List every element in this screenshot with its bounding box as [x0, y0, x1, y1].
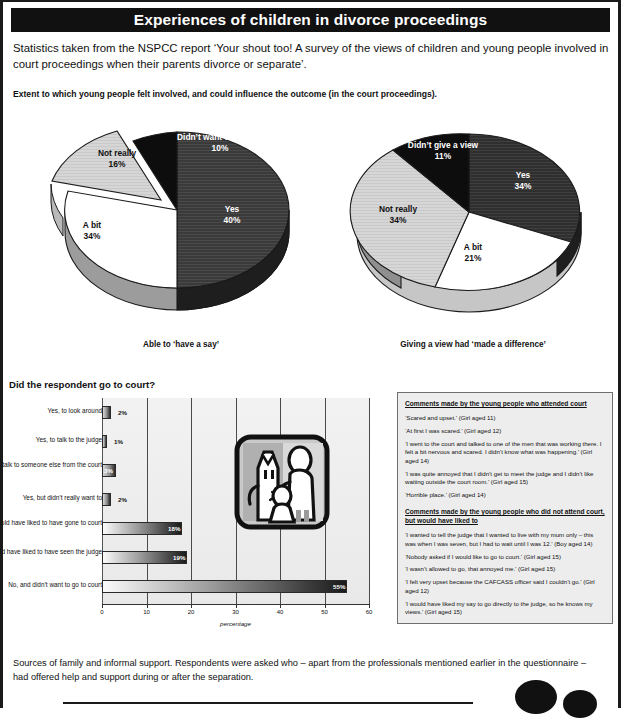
xtick-mark-30 — [236, 604, 237, 608]
comment-quote: ‘I went to the court and talked to one o… — [405, 440, 605, 465]
xtick-label: 0 — [92, 609, 112, 615]
xtick-mark-50 — [325, 604, 326, 608]
pie-1-slice-label-didnt-want: Didn’t want to be involved10% — [177, 132, 263, 153]
pie-1-slice-label-not-really: Not really16% — [83, 148, 151, 169]
bar-value-label: 3% — [104, 464, 113, 477]
pie-2-slice-label-didnt-give-view: Didn’t give a view11% — [407, 140, 479, 161]
pie-1-slice-label-a-bit: A bit34% — [65, 220, 119, 241]
xtick-mark-0 — [102, 604, 103, 608]
comments-heading-did-not-attend: Comments made by the young people who di… — [405, 507, 605, 525]
comment-quote: ‘Scared and upset.’ (Girl aged 11) — [405, 414, 605, 422]
bottom-paragraph: Sources of family and informal support. … — [13, 657, 603, 684]
bar-value-55 — [102, 580, 347, 593]
pie-2-slice-label-yes: Yes34% — [501, 170, 545, 191]
comment-quote: ‘I wanted to tell the judge that I wante… — [405, 531, 605, 548]
xtick-label: 60 — [359, 609, 379, 615]
bar-value-label: 55% — [333, 580, 345, 593]
bar-category-label: Yes, to talk to someone else from the co… — [0, 461, 102, 469]
bar-value-2 — [102, 406, 111, 419]
xtick-label: 10 — [137, 609, 157, 615]
comment-quote: ‘At first I was scared.’ (Girl aged 12) — [405, 427, 605, 435]
pie-chart-made-a-difference: Didn’t give a view11% Yes34% A bit21% No… — [343, 114, 611, 362]
bar-category-label: Yes, to look around — [0, 407, 102, 415]
xtick-label: 20 — [181, 609, 201, 615]
bar-chart-did-respondent-go-to-court: Yes, to look around 2% Yes, to talk to t… — [5, 398, 385, 628]
section-subheading: Extent to which young people felt involv… — [13, 88, 613, 100]
intro-paragraph: Statistics taken from the NSPCC report ‘… — [13, 40, 613, 72]
bar-value-label: 2% — [118, 406, 127, 419]
bar-chart-question: Did the respondent go to court? — [9, 379, 155, 390]
comment-quote: ‘I felt very upset because the CAFCASS o… — [405, 578, 605, 595]
gridline-20 — [191, 398, 192, 604]
bar-category-label: No, but would have liked to have seen th… — [0, 548, 102, 556]
gridline-10 — [147, 398, 148, 604]
pie-2-slice-label-a-bit: A bit21% — [451, 242, 495, 263]
comment-quote: ‘I was quite annoyed that I didn’t get t… — [405, 470, 605, 487]
bar-value-1 — [102, 435, 107, 448]
bottom-divider — [63, 702, 473, 704]
bar-value-label: 2% — [118, 493, 127, 506]
gridline-60 — [369, 398, 370, 604]
xtick-label: 40 — [270, 609, 290, 615]
pie-1-caption: Able to ‘have a say’ — [51, 340, 311, 349]
bar-category-label: No, but would have liked to have gone to… — [0, 519, 102, 527]
comments-panel: Comments made by the young people who at… — [397, 392, 613, 624]
bar-value-label: 18% — [168, 522, 180, 535]
pie-2-caption: Giving a view had ‘made a difference’ — [343, 340, 603, 349]
bar-category-label: No, and didn’t want to go to court — [0, 581, 102, 589]
pie-2-slice-label-not-really: Not really34% — [365, 204, 431, 225]
pie-chart-have-a-say: Didn’t want to be involved10% Yes40% A b… — [47, 114, 315, 362]
bar-chart-x-axis-label: percentage — [102, 620, 369, 627]
comment-quote: ‘I would have liked my say to go directl… — [405, 600, 605, 617]
xtick-mark-60 — [369, 604, 370, 608]
bar-value-label: 1% — [114, 435, 123, 448]
black-circle-decoration — [515, 680, 557, 714]
comment-quote: ‘I wasn’t allowed to go, that annoyed me… — [405, 565, 605, 573]
xtick-label: 50 — [315, 609, 335, 615]
bar-value-2b — [102, 493, 111, 506]
family-illustration-icon — [234, 434, 330, 530]
xtick-mark-40 — [280, 604, 281, 608]
bar-category-label: Yes, but didn’t really want to — [0, 494, 102, 502]
xtick-label: 30 — [226, 609, 246, 615]
pie-1-slice-label-yes: Yes40% — [207, 204, 257, 225]
black-circle-decoration-small — [563, 690, 597, 718]
xtick-mark-20 — [191, 604, 192, 608]
xtick-mark-10 — [147, 604, 148, 608]
comment-quote: ‘Horrible place.’ (Girl aged 14) — [405, 491, 605, 499]
bar-value-label: 19% — [173, 551, 185, 564]
bar-category-label: Yes, to talk to the judge — [0, 436, 102, 444]
page-title-bar: Experiences of children in divorce proce… — [11, 8, 610, 32]
comment-quote: ‘Nobody asked if I would like to go to c… — [405, 553, 605, 561]
page-title: Experiences of children in divorce proce… — [134, 11, 487, 29]
comments-heading-attended: Comments made by the young people who at… — [405, 399, 605, 408]
